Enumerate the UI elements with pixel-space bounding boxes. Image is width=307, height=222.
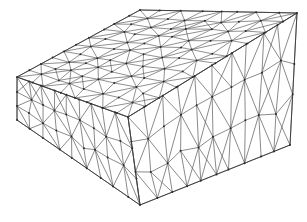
mesh-node: [29, 128, 31, 130]
mesh-node: [198, 146, 200, 148]
mesh-node: [130, 23, 132, 25]
mesh-node: [126, 42, 128, 44]
mesh-node: [227, 30, 229, 32]
mesh-node: [162, 95, 164, 97]
mesh-node: [143, 77, 145, 79]
mesh-node: [135, 178, 137, 180]
mesh-node: [275, 113, 277, 115]
mesh-node: [236, 11, 238, 13]
mesh-node: [160, 46, 162, 48]
mesh-node: [83, 147, 85, 149]
mesh-node: [97, 78, 99, 80]
mesh-node: [159, 9, 161, 11]
mesh-node: [88, 37, 90, 39]
mesh-node: [107, 156, 109, 158]
mesh-node: [93, 127, 95, 129]
mesh-node: [55, 130, 57, 132]
mesh-node: [59, 149, 61, 151]
mesh-node: [114, 111, 116, 113]
mesh-node: [127, 116, 129, 118]
mesh-node: [244, 119, 246, 121]
mesh-node: [280, 59, 282, 61]
mesh-node: [221, 11, 223, 13]
mesh-node: [143, 53, 145, 55]
mesh-node: [16, 119, 18, 121]
mesh-node: [130, 75, 132, 77]
mesh-node: [86, 167, 88, 169]
mesh-node: [97, 66, 99, 68]
mesh-node: [60, 92, 62, 94]
mesh-node: [105, 136, 107, 138]
mesh-node: [101, 107, 103, 109]
mesh-node: [180, 10, 182, 12]
mesh-node: [28, 69, 30, 71]
mesh-node: [63, 50, 65, 52]
mesh-node: [185, 28, 187, 30]
mesh-node: [102, 93, 104, 95]
mesh-node: [28, 80, 30, 82]
mesh-node: [156, 197, 158, 199]
mesh-node: [113, 23, 115, 25]
mesh-node: [289, 144, 291, 146]
mesh-node: [74, 97, 76, 99]
mesh-node: [58, 79, 60, 81]
mesh-node: [231, 40, 233, 42]
mesh-node: [171, 191, 173, 193]
mesh-node: [177, 86, 179, 88]
mesh-node: [52, 57, 54, 59]
mesh-node: [16, 76, 18, 78]
mesh-node: [184, 20, 186, 22]
mesh-node: [139, 9, 141, 11]
mesh-node: [150, 171, 152, 173]
mesh-node: [81, 75, 83, 77]
mesh-node: [161, 57, 163, 59]
mesh-node: [212, 136, 214, 138]
mesh-node: [53, 110, 55, 112]
mesh-node: [42, 85, 44, 87]
mesh-node: [86, 101, 88, 103]
mesh-node: [143, 106, 145, 108]
mesh-node: [71, 136, 73, 138]
mesh-node: [231, 86, 233, 88]
mesh-node: [139, 204, 141, 206]
mesh-node: [118, 97, 120, 99]
mesh-node: [200, 180, 202, 182]
mesh-node: [180, 114, 182, 116]
mesh-node: [28, 112, 30, 114]
mesh-node: [68, 61, 70, 63]
mesh-node: [211, 64, 213, 66]
mesh-node: [42, 137, 44, 139]
mesh-node: [261, 72, 263, 74]
mesh-node: [244, 79, 246, 81]
mesh-node: [211, 53, 213, 55]
mesh-node: [83, 88, 85, 90]
mesh-node: [127, 196, 129, 198]
mesh-node: [238, 21, 240, 23]
mesh-node: [54, 90, 56, 92]
mesh-node: [78, 98, 80, 100]
mesh-node: [167, 18, 169, 20]
mesh-node: [170, 28, 172, 30]
mesh-node: [135, 86, 137, 88]
mesh-node: [75, 44, 77, 46]
mesh-node: [182, 70, 184, 72]
mesh-node: [260, 156, 262, 158]
mesh-node: [296, 12, 298, 14]
mesh-node: [85, 62, 87, 64]
mesh-node: [211, 28, 213, 30]
mesh-node: [278, 12, 280, 14]
mesh-node: [273, 150, 275, 152]
mesh-node: [282, 21, 284, 23]
mesh-node: [196, 104, 198, 106]
mesh-node: [163, 81, 165, 83]
mesh-node: [258, 114, 260, 116]
mesh-node: [204, 20, 206, 22]
mesh-node: [96, 57, 98, 59]
mesh-node: [255, 11, 257, 13]
mesh-node: [186, 185, 188, 187]
mesh-node: [210, 40, 212, 42]
mesh-node: [211, 96, 213, 98]
mesh-node: [31, 99, 33, 101]
mesh-node: [216, 173, 218, 175]
mesh-node: [42, 104, 44, 106]
